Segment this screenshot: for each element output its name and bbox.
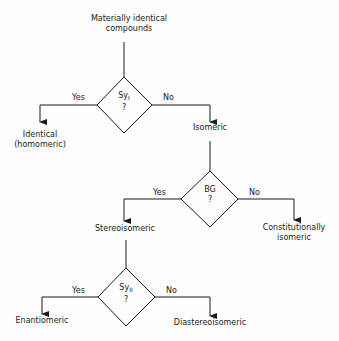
symbol: Sy: [118, 91, 128, 100]
edge-no-2: No: [249, 188, 260, 198]
symbol: Sy: [119, 283, 129, 292]
edge-yes-1: Yes: [72, 93, 85, 103]
result-line: (homomeric): [5, 140, 75, 150]
result-stereoisomeric: Stereoisomeric: [89, 224, 161, 234]
title-line-1: Materially identical: [74, 14, 184, 24]
result-enantiomeric: Enantiomeric: [12, 316, 72, 326]
result-line: Constitutionally: [254, 223, 334, 233]
subscript: I: [128, 94, 130, 101]
question-mark: ?: [111, 295, 141, 305]
edge-yes-3: Yes: [72, 286, 85, 296]
result-line: isomeric: [254, 233, 334, 243]
result-constitutionally-isomeric: Constitutionally isomeric: [254, 223, 334, 243]
result-diastereoisomeric: Diastereoisomeric: [168, 318, 252, 328]
question-mark: ?: [195, 195, 225, 205]
symbol: BG: [195, 185, 225, 195]
result-isomeric: Isomeric: [180, 123, 240, 133]
decision-sy1-label: SyI ?: [109, 91, 139, 113]
isomerism-flowchart: Materially identical compounds SyI ? Yes…: [0, 0, 339, 341]
edge-no-1: No: [163, 93, 174, 103]
start-node-title: Materially identical compounds: [74, 14, 184, 34]
question-mark: ?: [109, 103, 139, 113]
subscript: II: [129, 286, 133, 293]
result-identical: Identical (homomeric): [5, 130, 75, 150]
edge-no-3: No: [166, 286, 177, 296]
result-line: Identical: [5, 130, 75, 140]
edge-yes-2: Yes: [153, 188, 166, 198]
decision-sy2-label: SyII ?: [111, 283, 141, 305]
title-line-2: compounds: [74, 24, 184, 34]
decision-bg-label: BG ?: [195, 185, 225, 205]
